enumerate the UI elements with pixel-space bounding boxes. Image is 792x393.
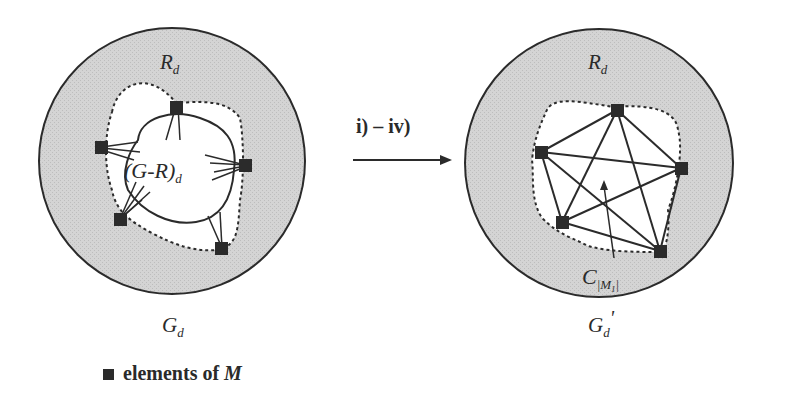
left-graph-label: Gd bbox=[162, 313, 184, 340]
node-square bbox=[654, 245, 667, 258]
node-square bbox=[114, 213, 127, 226]
right-graph: Rd C|M1| Gd' bbox=[465, 29, 733, 340]
node-square bbox=[239, 159, 252, 172]
inner-region-label: (G-R)d bbox=[124, 158, 182, 186]
transition-label: i) – iv) bbox=[356, 115, 410, 138]
node-square bbox=[215, 242, 228, 255]
arrow-head-icon bbox=[440, 155, 452, 165]
node-square bbox=[535, 146, 548, 159]
node-square bbox=[95, 141, 108, 154]
node-square bbox=[611, 104, 624, 117]
diagram-canvas: Rd (G-R)d Gd i) – iv) bbox=[0, 0, 792, 393]
right-graph-label: Gd' bbox=[588, 307, 615, 340]
node-square bbox=[675, 162, 688, 175]
node-square bbox=[170, 101, 183, 114]
legend-node-square-icon bbox=[103, 369, 114, 380]
legend-text: elements of M bbox=[123, 362, 243, 384]
transition-arrow: i) – iv) bbox=[353, 115, 452, 165]
legend: elements of M bbox=[103, 362, 243, 384]
left-graph: Rd (G-R)d Gd bbox=[39, 28, 305, 340]
node-square bbox=[556, 216, 569, 229]
